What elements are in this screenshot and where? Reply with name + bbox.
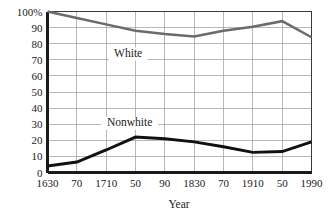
y-tick-label: 20: [32, 134, 44, 146]
y-tick-label: 90: [32, 22, 44, 34]
y-tick-label: 10: [32, 150, 44, 162]
y-tick-label: 80: [32, 38, 44, 50]
x-tick-label: 50: [130, 177, 142, 189]
series-label-nonwhite: Nonwhite: [107, 116, 152, 128]
x-tick-label: 50: [277, 177, 289, 189]
x-tick-label: 1910: [242, 177, 265, 189]
x-tick-label: 1830: [183, 177, 206, 189]
y-tick-label: 70: [32, 54, 44, 66]
x-axis-title: Year: [168, 198, 189, 210]
x-tick-label: 90: [159, 177, 171, 189]
x-tick-label: 1710: [95, 177, 118, 189]
population-share-line-chart: WhiteNonwhite 100%9080706050403020100 16…: [0, 0, 330, 216]
x-tick-label: 1990: [301, 177, 324, 189]
y-tick-label: 60: [32, 70, 44, 82]
y-tick-label: 30: [32, 118, 44, 130]
x-tick-label: 70: [71, 177, 83, 189]
x-tick-label: 1630: [37, 177, 60, 189]
y-tick-label: 50: [32, 86, 44, 98]
x-tick-label: 70: [218, 177, 230, 189]
y-tick-label: 100%: [17, 6, 43, 18]
series-label-white: White: [114, 47, 142, 59]
chart-container: WhiteNonwhite 100%9080706050403020100 16…: [0, 0, 330, 216]
y-tick-label: 40: [32, 102, 44, 114]
